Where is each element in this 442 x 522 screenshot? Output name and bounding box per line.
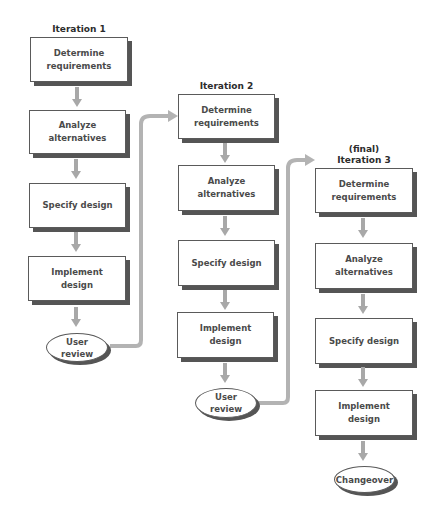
iteration-3-title: (final) Iteration 3 <box>315 144 413 166</box>
down-arrow-icon <box>71 232 81 252</box>
iter3-changeover: Changeover <box>334 466 395 493</box>
down-arrow-icon <box>71 159 81 179</box>
down-arrow-icon <box>220 143 230 163</box>
iter3-step-analyze-alternatives: Analyze alternatives <box>315 243 413 289</box>
iter3-step-determine-requirements: Determine requirements <box>315 168 413 213</box>
down-arrow-icon <box>358 441 368 461</box>
iter2-step-implement-design: Implement design <box>177 312 274 358</box>
arrowhead-icon <box>305 154 315 166</box>
down-arrow-icon <box>220 363 230 383</box>
down-arrow-icon <box>358 218 368 238</box>
down-arrow-icon <box>220 290 230 310</box>
down-arrow-icon <box>358 294 368 314</box>
iteration-3-final-tag: (final) <box>315 144 413 155</box>
iteration-2-title: Iteration 2 <box>178 81 275 92</box>
iter2-step-analyze-alternatives: Analyze alternatives <box>178 165 275 211</box>
down-arrow-icon <box>220 216 230 236</box>
iter2-user-review: User review <box>195 388 257 418</box>
arrowhead-icon <box>168 110 178 122</box>
iteration-1-title: Iteration 1 <box>30 24 128 35</box>
down-arrow-icon <box>358 367 368 387</box>
iter1-step-implement-design: Implement design <box>28 256 126 301</box>
iter2-step-specify-design: Specify design <box>178 240 275 286</box>
down-arrow-icon <box>72 87 82 107</box>
iter1-user-review: User review <box>46 333 108 362</box>
down-arrow-icon <box>71 307 81 327</box>
iter1-step-specify-design: Specify design <box>29 183 126 228</box>
iter2-step-determine-requirements: Determine requirements <box>178 94 275 139</box>
iter3-step-implement-design: Implement design <box>315 390 413 436</box>
iter1-step-determine-requirements: Determine requirements <box>30 37 128 82</box>
iter1-step-analyze-alternatives: Analyze alternatives <box>29 110 126 154</box>
flowchart: Iteration 1 Determine requirements Analy… <box>0 0 442 522</box>
iter3-step-specify-design: Specify design <box>315 318 413 364</box>
iteration-3-title-text: Iteration 3 <box>315 155 413 166</box>
